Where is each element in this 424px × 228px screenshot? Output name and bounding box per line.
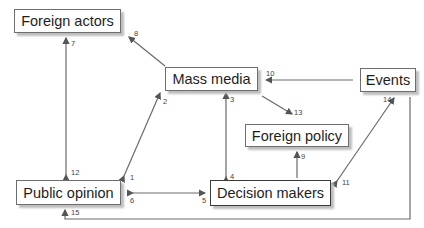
edge-label-3: 3 bbox=[230, 95, 234, 104]
node-decision-makers: Decision makers bbox=[210, 180, 331, 206]
node-foreign-policy: Foreign policy bbox=[245, 124, 349, 147]
edge-label-11: 11 bbox=[342, 178, 350, 187]
node-foreign-actors: Foreign actors bbox=[14, 9, 121, 33]
edge-label-13: 13 bbox=[294, 108, 302, 117]
edge-label-4: 4 bbox=[230, 172, 234, 181]
node-events: Events bbox=[360, 68, 416, 92]
edge-label-9: 9 bbox=[301, 152, 305, 161]
node-public-opinion: Public opinion bbox=[16, 180, 121, 205]
edge-label-15: 15 bbox=[71, 208, 79, 217]
edge-label-10: 10 bbox=[266, 69, 274, 78]
edge-label-14: 14 bbox=[383, 95, 391, 104]
edge-label-8: 8 bbox=[134, 29, 138, 38]
edge-label-5: 5 bbox=[202, 196, 206, 205]
edge-label-6: 6 bbox=[130, 196, 134, 205]
edge-label-2: 2 bbox=[163, 97, 167, 106]
edge-mass-media-foreign-actors bbox=[129, 37, 165, 66]
edge-public-opinion-mass-media bbox=[124, 93, 160, 176]
edge-label-12: 12 bbox=[71, 168, 79, 177]
edge-label-1: 1 bbox=[130, 173, 134, 182]
node-mass-media: Mass media bbox=[165, 67, 258, 91]
edge-label-7: 7 bbox=[71, 39, 75, 48]
edge-mass-media-foreign-policy bbox=[262, 96, 292, 114]
